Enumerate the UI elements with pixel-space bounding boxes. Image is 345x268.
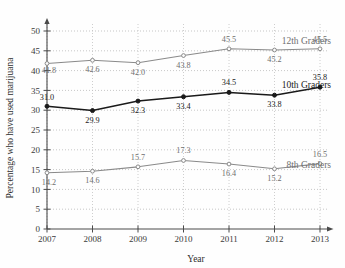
data-point-marker [273, 167, 277, 171]
data-point-label: 45.5 [222, 35, 236, 44]
x-tick-label: 2013 [311, 234, 330, 244]
data-point-label: 32.3 [131, 106, 145, 115]
data-point-label: 16.4 [222, 169, 236, 178]
data-point-marker [91, 169, 95, 173]
data-point-marker [318, 47, 322, 51]
x-tick-label: 2010 [175, 234, 194, 244]
y-tick-label: 25 [31, 125, 41, 135]
x-tick-label: 2009 [129, 234, 148, 244]
y-tick-label: 20 [31, 145, 41, 155]
series-name-label-0: 12th Graders [282, 36, 332, 46]
data-point-label: 43.8 [176, 61, 190, 70]
data-point-marker [227, 162, 231, 166]
y-tick-label: 15 [31, 165, 41, 175]
data-point-marker [227, 90, 231, 94]
y-axis-arrow [44, 18, 49, 24]
y-tick-label: 50 [31, 26, 41, 36]
data-point-label: 33.8 [267, 100, 281, 109]
data-point-label: 15.2 [267, 174, 281, 183]
data-point-label: 42.0 [131, 68, 145, 77]
data-point-label: 42.6 [85, 65, 99, 74]
data-point-marker [136, 165, 140, 169]
data-point-marker [136, 61, 140, 65]
y-tick-label: 45 [31, 46, 41, 56]
data-point-marker [45, 104, 49, 108]
data-point-label: 29.9 [85, 116, 99, 125]
series-name-label-1: 10th Graders [282, 80, 332, 90]
data-point-marker [182, 95, 186, 99]
x-tick-label: 2008 [84, 234, 103, 244]
data-point-label: 34.5 [222, 78, 236, 87]
data-point-label: 16.5 [313, 150, 327, 159]
y-axis-ticks: 05101520253035404550 [31, 26, 51, 234]
y-tick-label: 0 [36, 224, 41, 234]
data-point-marker [91, 58, 95, 62]
data-point-label: 33.4 [176, 102, 190, 111]
data-point-label: 17.3 [176, 146, 190, 155]
x-axis-ticks: 2007200820092010201120122013 [38, 226, 330, 245]
y-tick-label: 10 [31, 185, 41, 195]
data-point-marker [273, 93, 277, 97]
data-point-marker [136, 99, 140, 103]
x-axis-title: Year [187, 254, 205, 264]
data-point-marker [273, 48, 277, 52]
data-point-label: 31.0 [40, 93, 54, 102]
data-point-marker [91, 109, 95, 113]
x-axis-arrow [327, 226, 334, 231]
data-point-label: 14.2 [42, 178, 56, 187]
y-tick-label: 30 [31, 105, 41, 115]
data-point-label: 15.7 [131, 153, 145, 162]
x-tick-label: 2012 [266, 234, 284, 244]
chart-canvas: 05101520253035404550 2007200820092010201… [0, 0, 345, 268]
data-point-marker [182, 54, 186, 58]
data-point-marker [45, 171, 49, 175]
line-chart: 05101520253035404550 2007200820092010201… [0, 0, 345, 268]
y-tick-label: 5 [36, 204, 41, 214]
data-point-marker [182, 159, 186, 163]
y-axis-title: Percentage who have used marijuana [5, 57, 15, 199]
series-name-label-2: 8th Graders [286, 160, 331, 170]
x-tick-label: 2007 [38, 234, 57, 244]
data-point-marker [45, 62, 49, 66]
x-tick-label: 2011 [220, 234, 238, 244]
data-point-label: 45.2 [267, 55, 281, 64]
y-tick-label: 40 [31, 66, 41, 76]
data-point-label: 14.6 [85, 176, 99, 185]
data-point-marker [227, 47, 231, 51]
data-point-label: 41.8 [42, 66, 56, 75]
